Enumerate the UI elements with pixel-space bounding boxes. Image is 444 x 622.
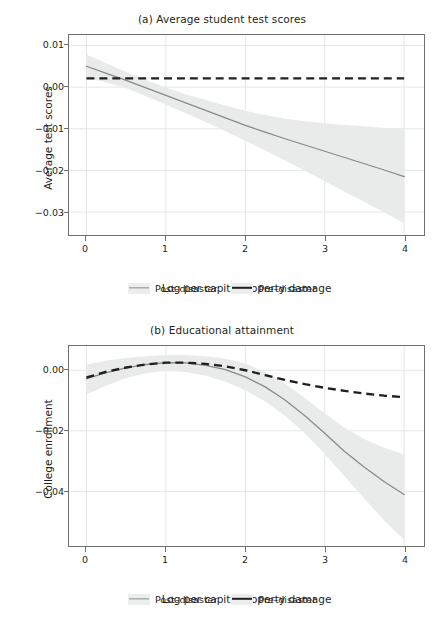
panel-b-ytick-0: 0.00 xyxy=(18,364,64,375)
panel-a-svg xyxy=(69,35,424,235)
panel-b-xtick-2: 2 xyxy=(230,554,260,565)
panel-a-plot-area: Average test scores 0.01 0.00 −0.01 −0.0… xyxy=(0,30,444,245)
panel-b-legend-label-post: Post–disaster xyxy=(155,594,218,605)
panel-a-xtickmark-2 xyxy=(245,236,246,241)
panel-a-legend-label-pre: Pre–disaster xyxy=(258,283,316,294)
panel-b-ytick-2: −0.04 xyxy=(18,486,64,497)
panel-a-ytick-2: −0.01 xyxy=(18,123,64,134)
panel-b-xtick-0: 0 xyxy=(70,554,100,565)
panel-b-xtickmark-2 xyxy=(245,547,246,552)
panel-a-x-ticks: 0 1 2 3 4 xyxy=(68,236,425,262)
panel-b-legend-item-post[interactable]: Post–disaster xyxy=(128,594,218,605)
panel-a-xtickmark-4 xyxy=(405,236,406,241)
panel-a-xtick-2: 2 xyxy=(230,243,260,254)
panel-a-xtickmark-1 xyxy=(165,236,166,241)
panel-b: (b) Educational attainment College enrol… xyxy=(0,311,444,622)
panel-b-legend-item-pre[interactable]: Pre–disaster xyxy=(231,594,316,605)
panel-a-xtickmark-0 xyxy=(85,236,86,241)
panel-a-ytick-1: 0.00 xyxy=(18,81,64,92)
panel-a-y-ticks: 0.01 0.00 −0.01 −0.02 −0.03 xyxy=(12,34,64,236)
panel-b-legend-label-pre: Pre–disaster xyxy=(258,594,316,605)
panel-b-title: (b) Educational attainment xyxy=(0,324,444,336)
panel-a-legend-label-post: Post–disaster xyxy=(155,283,218,294)
panel-b-plot-area: College enrollment 0.00 −0.02 −0.04 0 1 … xyxy=(0,341,444,556)
panel-b-xtick-3: 3 xyxy=(310,554,340,565)
panel-b-xtickmark-3 xyxy=(325,547,326,552)
post-disaster-swatch-icon xyxy=(128,594,150,605)
panel-a: (a) Average student test scores Average … xyxy=(0,0,444,311)
panel-b-xtickmark-1 xyxy=(165,547,166,552)
post-disaster-swatch-icon xyxy=(128,283,150,294)
pre-disaster-swatch-icon xyxy=(231,283,253,294)
panel-b-x-ticks: 0 1 2 3 4 xyxy=(68,547,425,573)
panel-b-xtickmark-4 xyxy=(405,547,406,552)
panel-b-frame xyxy=(68,345,425,547)
panel-a-xtick-0: 0 xyxy=(70,243,100,254)
panel-b-xtick-4: 4 xyxy=(390,554,420,565)
panel-a-xtick-3: 3 xyxy=(310,243,340,254)
panel-b-xtick-1: 1 xyxy=(150,554,180,565)
panel-b-legend: Post–disaster Pre–disaster xyxy=(0,589,444,609)
panel-b-xtickmark-0 xyxy=(85,547,86,552)
panel-a-ytick-0: 0.01 xyxy=(18,39,64,50)
panel-a-legend-item-post[interactable]: Post–disaster xyxy=(128,283,218,294)
panel-b-ytick-1: −0.02 xyxy=(18,425,64,436)
panel-a-legend: Post–disaster Pre–disaster xyxy=(0,278,444,298)
panel-a-xtick-1: 1 xyxy=(150,243,180,254)
panel-b-svg xyxy=(69,346,424,546)
panel-a-ytick-3: −0.02 xyxy=(18,165,64,176)
figure-two-panel-chart: (a) Average student test scores Average … xyxy=(0,0,444,622)
panel-a-frame xyxy=(68,34,425,236)
panel-a-xtick-4: 4 xyxy=(390,243,420,254)
panel-a-ytick-4: −0.03 xyxy=(18,207,64,218)
pre-disaster-swatch-icon xyxy=(231,594,253,605)
panel-a-xtickmark-3 xyxy=(325,236,326,241)
panel-b-y-ticks: 0.00 −0.02 −0.04 xyxy=(12,345,64,547)
panel-a-legend-item-pre[interactable]: Pre–disaster xyxy=(231,283,316,294)
panel-a-title: (a) Average student test scores xyxy=(0,13,444,25)
